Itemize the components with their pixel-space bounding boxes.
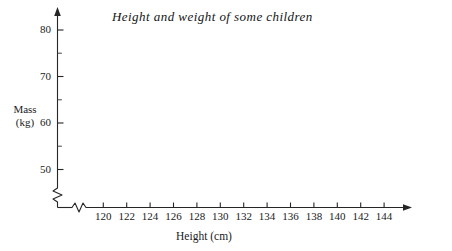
y-minor-ticks — [58, 53, 62, 146]
x-axis-title: Height (cm) — [0, 230, 452, 242]
x-major-ticks — [103, 203, 384, 208]
x-axis-arrowhead — [403, 204, 412, 211]
x-tick-label: 144 — [369, 211, 399, 222]
y-axis-break-icon — [53, 188, 62, 202]
y-axis-title-line2: (kg) — [2, 116, 48, 129]
y-axis-title: Mass (kg) — [2, 103, 48, 129]
chart-container: Height and weight of some children — [0, 0, 452, 251]
x-axis-title-text: Height (cm) — [176, 230, 232, 242]
y-tick-label: 70 — [25, 71, 51, 82]
y-axis-title-line1: Mass — [2, 103, 48, 116]
y-axis-arrowhead — [54, 7, 61, 16]
y-tick-label: 50 — [25, 164, 51, 175]
x-axis-break-icon — [72, 203, 86, 212]
y-tick-label: 80 — [25, 24, 51, 35]
